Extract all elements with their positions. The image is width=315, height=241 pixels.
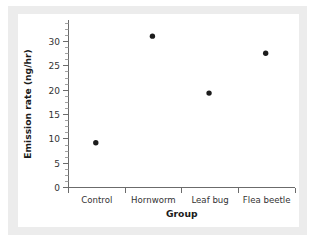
x-axis: Control Hornworm Leaf bug Flea beetle Gr… (69, 188, 296, 220)
x-category-label-control: Control (81, 195, 112, 205)
y-axis: 30 25 20 15 10 5 0 Emission rate (ng/hr) (22, 20, 69, 193)
y-tick-label-25: 25 (49, 61, 60, 71)
y-tick-label-5: 5 (54, 159, 60, 169)
y-tick-label-30: 30 (49, 37, 61, 47)
x-category-label-hornworm: Hornworm (131, 195, 176, 205)
x-category-label-flea-beetle: Flea beetle (243, 195, 291, 205)
y-tick-label-15: 15 (49, 110, 60, 120)
data-point-leaf-bug (206, 90, 211, 95)
data-point-control (93, 140, 98, 145)
data-point-hornworm (150, 33, 155, 38)
x-category-label-leaf-bug: Leaf bug (191, 195, 228, 205)
scatter-chart: 30 25 20 15 10 5 0 Emission rate (ng/hr)… (0, 0, 315, 241)
y-tick-label-20: 20 (49, 86, 61, 96)
y-axis-title: Emission rate (ng/hr) (22, 49, 33, 159)
data-series (93, 33, 268, 145)
figure-root: 30 25 20 15 10 5 0 Emission rate (ng/hr)… (0, 0, 315, 241)
y-tick-label-10: 10 (49, 134, 61, 144)
data-point-flea-beetle (263, 50, 268, 55)
x-axis-title: Group (166, 208, 198, 219)
y-tick-label-0: 0 (54, 183, 60, 193)
